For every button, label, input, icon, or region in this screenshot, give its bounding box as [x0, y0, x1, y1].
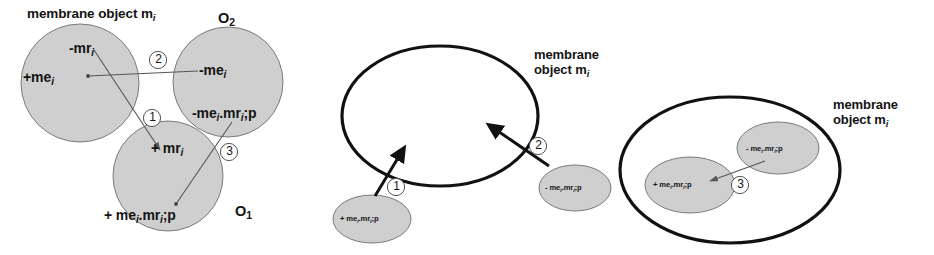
label-minus-me-i-right: -mei: [199, 63, 226, 80]
label-plus-me-mr-p: + mei.mri;p: [104, 208, 176, 225]
o1-subscript: 1: [246, 210, 252, 221]
o2-subscript: 2: [229, 17, 235, 28]
connector-3-dot: [174, 202, 178, 206]
badge-1-label: 1: [148, 111, 157, 124]
panel-middle-caption: membrane object mi: [534, 48, 599, 79]
panel-right-caption-line1: membrane: [833, 98, 898, 113]
panel-left-caption: membrane object mi: [27, 6, 155, 24]
panel-right-caption: membrane object mi: [833, 98, 898, 129]
label-middle-outgoing: - mei.mri;p: [545, 184, 582, 193]
badge-2-label: 2: [154, 53, 163, 66]
me-subscript: i: [51, 76, 54, 87]
mr-subscript-bottom: i: [181, 147, 184, 158]
connector-2-dot: [86, 74, 90, 78]
panel-right-caption-line2: object mi: [833, 113, 898, 129]
caption-subscript-right: i: [886, 118, 889, 128]
panel-right-shapes: [620, 97, 840, 243]
membrane-object-diagram: membrane object mi O2 -mri +mei -mei -me…: [0, 0, 934, 255]
caption-subscript-mid: i: [587, 68, 590, 78]
mr-subscript: i: [91, 47, 94, 58]
panel-left-shapes: [21, 24, 283, 231]
me-subscript-right: i: [224, 69, 227, 80]
panel-middle-caption-line1: membrane: [534, 48, 599, 63]
label-plus-mr-i: + mri: [151, 141, 183, 158]
object-label-o1: O1: [235, 203, 252, 221]
label-middle-incoming: + mei.mri;p: [340, 215, 378, 224]
panel-middle-caption-line2: object mi: [534, 63, 599, 79]
badge-right-3-label: 3: [736, 178, 745, 191]
membrane-ellipse-middle: [342, 46, 538, 186]
label-right-inner-left: + mei.mri;p: [653, 181, 691, 190]
label-minus-mr-i: -mri: [69, 41, 94, 58]
object-label-o2: O2: [218, 10, 235, 28]
badge-mid-2-label: 2: [534, 139, 543, 152]
label-minus-me-mr-p: -mei.mri;p: [192, 106, 257, 123]
badge-mid-1-label: 1: [392, 180, 401, 193]
label-plus-me-i: +mei: [23, 70, 54, 87]
label-right-inner-right: - mei.mri;p: [746, 145, 783, 154]
caption-subscript: i: [153, 12, 156, 23]
badge-3-label: 3: [225, 145, 234, 158]
